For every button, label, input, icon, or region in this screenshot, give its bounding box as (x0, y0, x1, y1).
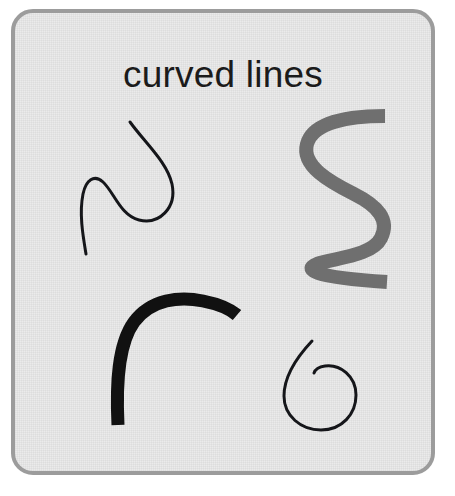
curves-svg (15, 13, 435, 475)
black-spiral-path (284, 341, 356, 430)
curved-lines-illustration (15, 13, 431, 471)
flashcard-panel: curved lines (11, 9, 435, 475)
thin-s-curve-path (81, 122, 173, 254)
thick-gray-zigzag-path (306, 116, 387, 282)
thick-black-arch-path (117, 299, 237, 425)
